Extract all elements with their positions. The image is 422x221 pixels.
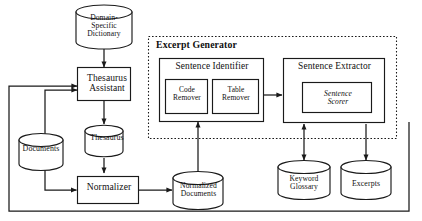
process-thesaurus-assistant — [78, 68, 131, 101]
datastore-thesaurus — [85, 125, 123, 157]
datastore-keyword-glossary — [278, 161, 330, 200]
process-normalizer — [78, 177, 139, 204]
process-sentence-scorer — [303, 83, 372, 113]
process-code-remover — [166, 80, 208, 114]
datastore-normalized-documents — [173, 172, 223, 210]
datastore-excerpts — [341, 161, 391, 200]
datastore-documents — [19, 134, 63, 171]
datastore-domain-specific-dictionary — [76, 5, 132, 49]
process-table-remover — [213, 80, 259, 114]
dataflow-diagram: Domain- Specific Dictionary Thesaurus As… — [0, 0, 422, 221]
diagram-canvas — [0, 0, 422, 221]
